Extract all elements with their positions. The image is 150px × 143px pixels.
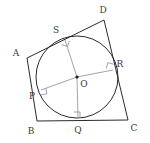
tangent-label-s: S — [53, 26, 59, 35]
radius-line-OR — [77, 70, 113, 77]
radius-line-OP — [41, 77, 77, 90]
vertex-label-b: B — [28, 127, 35, 136]
radius-line-OS — [64, 37, 77, 77]
figure-canvas — [0, 0, 150, 143]
geometry-figure: A B C D P Q R S O — [0, 0, 150, 143]
tangent-label-q: Q — [74, 126, 81, 135]
center-point-dot — [75, 75, 78, 78]
center-label-o: O — [80, 80, 87, 89]
edge-BC — [37, 120, 128, 121]
edge-AB — [27, 58, 37, 121]
vertex-label-c: C — [131, 124, 138, 133]
vertex-label-d: D — [99, 6, 106, 15]
right-angle-at-Q-icon — [74, 112, 80, 118]
right-angle-at-R-icon — [106, 63, 113, 69]
tangent-label-p: P — [29, 92, 35, 101]
vertex-label-a: A — [13, 49, 20, 58]
tangent-label-r: R — [117, 60, 124, 69]
